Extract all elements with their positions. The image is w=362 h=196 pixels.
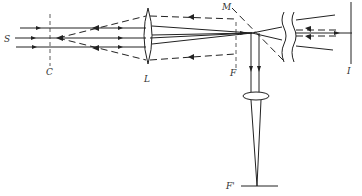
label-lens: L bbox=[143, 74, 150, 84]
incoming-rays bbox=[15, 26, 146, 49]
outgoing-rays bbox=[252, 15, 352, 50]
label-reflected-focal-plane: F' bbox=[225, 181, 235, 191]
break-symbol-left bbox=[282, 12, 286, 62]
label-image-plane: I bbox=[346, 66, 351, 76]
break-symbol-right bbox=[292, 12, 296, 62]
optics-diagram: S C L F M bbox=[0, 0, 362, 196]
label-mirror: M bbox=[221, 2, 232, 12]
label-focal-plane: F bbox=[229, 68, 237, 78]
secondary-lens bbox=[243, 92, 269, 100]
label-condenser-plane: C bbox=[46, 67, 53, 77]
label-source: S bbox=[4, 34, 10, 44]
reflected-rays bbox=[249, 33, 261, 186]
converging-rays bbox=[150, 26, 252, 44]
